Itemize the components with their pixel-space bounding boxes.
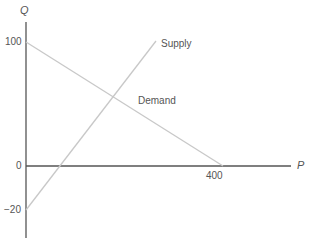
- demand-line: [26, 42, 223, 166]
- y-axis-label: Q: [20, 5, 29, 16]
- demand-label: Demand: [138, 96, 176, 106]
- x-axis-label: P: [297, 160, 304, 171]
- x-tick-400: 400: [206, 171, 223, 181]
- y-tick-neg20: −20: [4, 205, 21, 215]
- supply-demand-chart: [0, 0, 315, 246]
- supply-label: Supply: [161, 39, 192, 49]
- supply-line: [26, 41, 156, 210]
- y-tick-100: 100: [5, 37, 22, 47]
- y-tick-0: 0: [16, 161, 22, 171]
